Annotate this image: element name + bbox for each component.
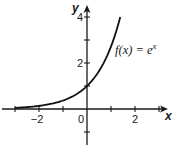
function-label-main: f(x) = e [115, 43, 153, 57]
axes [2, 5, 168, 145]
y-tick-label: 2 [77, 57, 83, 69]
y-axis-label: y [71, 1, 80, 15]
x-tick-label: 2 [132, 113, 138, 125]
x-tick-labels: −202 [31, 113, 138, 125]
function-label: f(x) = ex [115, 41, 157, 57]
y-tick-labels: 24 [77, 11, 83, 69]
function-label-exponent: x [152, 41, 157, 51]
x-tick-label: 0 [78, 113, 84, 125]
exp-curve [15, 17, 120, 108]
x-axis-label: x [164, 109, 173, 123]
exponential-function-chart: −202 24 x y f(x) = ex [0, 0, 174, 147]
x-tick-label: −2 [31, 113, 44, 125]
